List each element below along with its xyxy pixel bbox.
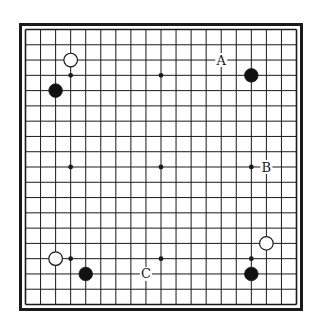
star-point bbox=[68, 256, 73, 261]
white-stone bbox=[260, 237, 274, 251]
star-point bbox=[159, 256, 164, 261]
star-point bbox=[249, 165, 254, 170]
black-stone bbox=[245, 267, 259, 281]
black-stone bbox=[79, 267, 93, 281]
point-label-c: C bbox=[141, 266, 151, 281]
star-point bbox=[159, 165, 164, 170]
go-board: ABC bbox=[0, 0, 316, 334]
white-stone bbox=[49, 252, 63, 266]
white-stone bbox=[64, 53, 78, 67]
star-point bbox=[68, 73, 73, 78]
star-point bbox=[68, 165, 73, 170]
black-stone bbox=[245, 69, 259, 83]
star-point bbox=[249, 256, 254, 261]
point-label-b: B bbox=[262, 160, 272, 175]
black-stone bbox=[49, 84, 63, 98]
star-point bbox=[159, 73, 164, 78]
point-label-a: A bbox=[216, 53, 227, 68]
